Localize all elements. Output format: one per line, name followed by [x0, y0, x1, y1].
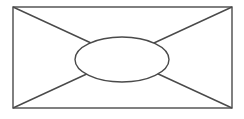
- envelope-diagram: [0, 0, 244, 119]
- diagram-canvas: [0, 0, 244, 119]
- center-ellipse: [75, 37, 169, 82]
